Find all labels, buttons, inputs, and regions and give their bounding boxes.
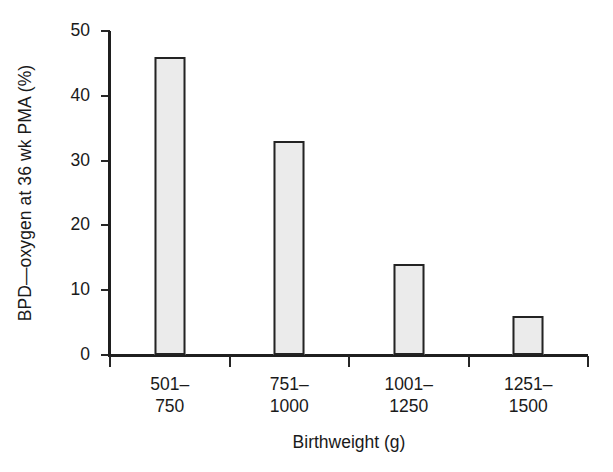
- bar-slot: [469, 31, 589, 355]
- bar-slot: [349, 31, 469, 355]
- bar: [513, 316, 544, 355]
- x-axis-title: Birthweight (g): [110, 432, 588, 453]
- y-tick-label: 10: [30, 281, 90, 299]
- bar: [393, 264, 424, 355]
- y-tick-label: 50: [30, 22, 90, 40]
- bar: [274, 141, 305, 355]
- x-tick-label: 501–750: [110, 374, 230, 417]
- y-tick-label: 40: [30, 87, 90, 105]
- x-tick-label-line1: 751–: [270, 374, 309, 394]
- bar-slot: [230, 31, 350, 355]
- y-axis-title: BPD—oxygen at 36 wk PMA (%): [4, 0, 46, 388]
- bar-slot: [110, 31, 230, 355]
- x-tick-label-line2: 1250: [349, 396, 469, 418]
- y-tick-label: 30: [30, 152, 90, 170]
- x-tick-mark: [468, 356, 470, 367]
- x-tick-mark: [109, 356, 111, 367]
- x-tick-label-line2: 750: [110, 396, 230, 418]
- x-tick-label: 751–1000: [230, 374, 350, 417]
- x-tick-mark: [229, 356, 231, 367]
- x-tick-label-line1: 501–: [150, 374, 189, 394]
- x-tick-label-line1: 1001–: [384, 374, 433, 394]
- x-tick-label: 1001–1250: [349, 374, 469, 417]
- x-tick-label-line1: 1251–: [504, 374, 553, 394]
- bar-chart-figure: BPD—oxygen at 36 wk PMA (%) 01020304050 …: [0, 0, 613, 472]
- plot-area: [110, 31, 588, 355]
- y-tick-label: 20: [30, 217, 90, 235]
- x-tick-mark: [587, 356, 589, 367]
- x-tick-label-line2: 1500: [469, 396, 589, 418]
- x-tick-label-line2: 1000: [230, 396, 350, 418]
- x-tick-label: 1251–1500: [469, 374, 589, 417]
- bar: [154, 57, 185, 355]
- x-tick-mark: [348, 356, 350, 367]
- y-tick-label: 0: [30, 346, 90, 364]
